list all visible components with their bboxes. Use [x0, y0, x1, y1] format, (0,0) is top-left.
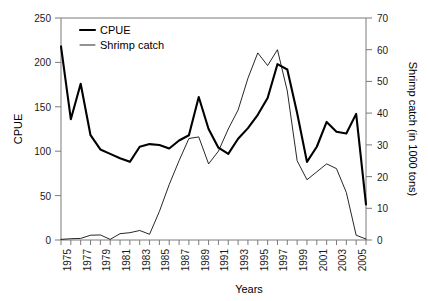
y2tick-label-30: 30: [377, 140, 389, 151]
x-axis-title: Years: [235, 283, 263, 295]
xtick-label-1993: 1993: [239, 249, 250, 272]
y2tick-label-70: 70: [377, 13, 389, 24]
xtick-label-2001: 2001: [318, 249, 329, 272]
series-line-shrimp-catch: [61, 50, 366, 240]
y2tick-label-10: 10: [377, 203, 389, 214]
ytick-label-100: 100: [34, 146, 51, 157]
y-axis-title: CPUE: [12, 114, 24, 145]
xtick-label-1985: 1985: [160, 249, 171, 272]
y2tick-label-0: 0: [377, 235, 383, 246]
xtick-label-1979: 1979: [101, 249, 112, 272]
xtick-label-1975: 1975: [62, 249, 73, 272]
xtick-label-1989: 1989: [200, 249, 211, 272]
xtick-label-1981: 1981: [121, 249, 132, 272]
ytick-label-200: 200: [34, 57, 51, 68]
plot-frame: [61, 18, 366, 240]
xtick-label-1999: 1999: [298, 249, 309, 272]
ytick-label-0: 0: [45, 235, 51, 246]
y2tick-label-20: 20: [377, 172, 389, 183]
xtick-label-1987: 1987: [180, 249, 191, 272]
chart-legend: CPUE Shrimp catch: [80, 24, 164, 51]
y2tick-label-60: 60: [377, 45, 389, 56]
xtick-label-1995: 1995: [259, 249, 270, 272]
y2tick-label-40: 40: [377, 108, 389, 119]
ytick-label-50: 50: [40, 191, 52, 202]
legend-label-shrimp-catch: Shrimp catch: [100, 39, 164, 51]
xtick-label-1977: 1977: [82, 249, 93, 272]
legend-label-cpue: CPUE: [100, 24, 131, 36]
x-axis-tick-labels: 1975197719791981198319851987198919911993…: [62, 249, 368, 272]
y2-axis-title: Shrimp catch (in 1000 tons): [407, 62, 419, 197]
y2tick-label-50: 50: [377, 76, 389, 87]
xtick-label-1991: 1991: [219, 249, 230, 272]
left-axis-ticks: 250 200 150 100 50 0: [34, 13, 61, 246]
ytick-label-150: 150: [34, 102, 51, 113]
xtick-label-1997: 1997: [278, 249, 289, 272]
ytick-label-250: 250: [34, 13, 51, 24]
chart-figure: 250 200 150 100 50 0 70 60 50 40 30 20 1…: [0, 0, 428, 301]
right-axis-ticks: 70 60 50 40 30 20 10 0: [366, 13, 389, 246]
line-chart: 250 200 150 100 50 0 70 60 50 40 30 20 1…: [0, 0, 428, 301]
series-line-cpue: [61, 46, 366, 204]
xtick-label-1983: 1983: [141, 249, 152, 272]
xtick-label-2005: 2005: [357, 249, 368, 272]
x-axis-ticks: [61, 240, 366, 245]
xtick-label-2003: 2003: [337, 249, 348, 272]
